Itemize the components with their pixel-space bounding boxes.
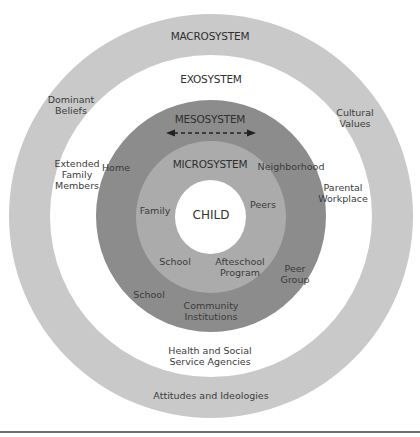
microsystem-label: MICROSYSTEM [173,159,248,170]
mesosystem-label: MESOSYSTEM [175,114,245,125]
afterschool-program-label: Afteschool Program [215,256,264,278]
home-label: Home [102,162,130,173]
family-label: Family [140,205,171,216]
neighborhood-label: Neighborhood [258,161,325,172]
parental-workplace-label: Parental Workplace [318,182,368,204]
bottom-divider [0,431,420,433]
macrosystem-label: MACROSYSTEM [171,31,250,42]
extended-family-label: Extended Family Members [54,158,99,191]
cultural-values-label: Cultural Values [336,107,373,129]
peer-group-label: Peer Group [281,263,310,285]
dominant-beliefs-label: Dominant Beliefs [48,94,95,116]
school-meso-label: School [133,289,165,300]
child-label: CHILD [193,210,230,221]
attitudes-ideologies-label: Attitudes and Ideologies [153,390,268,401]
school-micro-label: School [159,256,191,267]
community-institutions-label: Community Institutions [184,300,239,322]
bidirectional-arrow-icon [166,128,256,138]
health-social-services-label: Health and Social Service Agencies [168,345,251,367]
peers-label: Peers [250,199,276,210]
exosystem-label: EXOSYSTEM [180,74,241,85]
